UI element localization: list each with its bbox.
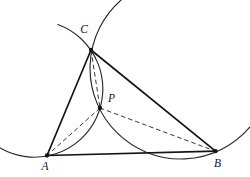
edge-AB <box>47 151 216 155</box>
geometry-svg: A B C P <box>0 0 250 177</box>
arc-circle-CPA <box>0 25 103 158</box>
point-dot-P <box>98 106 102 110</box>
arcs-group <box>0 0 250 159</box>
dashed-group <box>47 50 216 156</box>
vertex-label-B: B <box>214 157 221 169</box>
vertex-label-P: P <box>107 92 115 104</box>
point-dot-A <box>45 153 49 157</box>
point-dot-C <box>89 48 93 52</box>
arc-circle-CPB <box>90 0 250 159</box>
dashed-PA <box>47 108 100 156</box>
vertex-label-C: C <box>80 23 88 35</box>
vertex-label-A: A <box>40 160 49 172</box>
edge-AC <box>47 50 91 156</box>
dashed-PB <box>100 108 216 151</box>
dots-group <box>45 48 218 158</box>
figure-canvas: A B C P <box>0 0 250 177</box>
point-dot-B <box>213 149 217 153</box>
edges-group <box>47 50 216 156</box>
